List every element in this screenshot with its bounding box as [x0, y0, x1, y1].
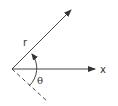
- angle-arc: [29, 54, 37, 86]
- polar-diagram: r θ x: [0, 0, 118, 106]
- angle-label: θ: [37, 75, 43, 86]
- radius-vector: [12, 10, 71, 69]
- x-axis-label: x: [100, 64, 106, 75]
- radius-label: r: [23, 37, 28, 48]
